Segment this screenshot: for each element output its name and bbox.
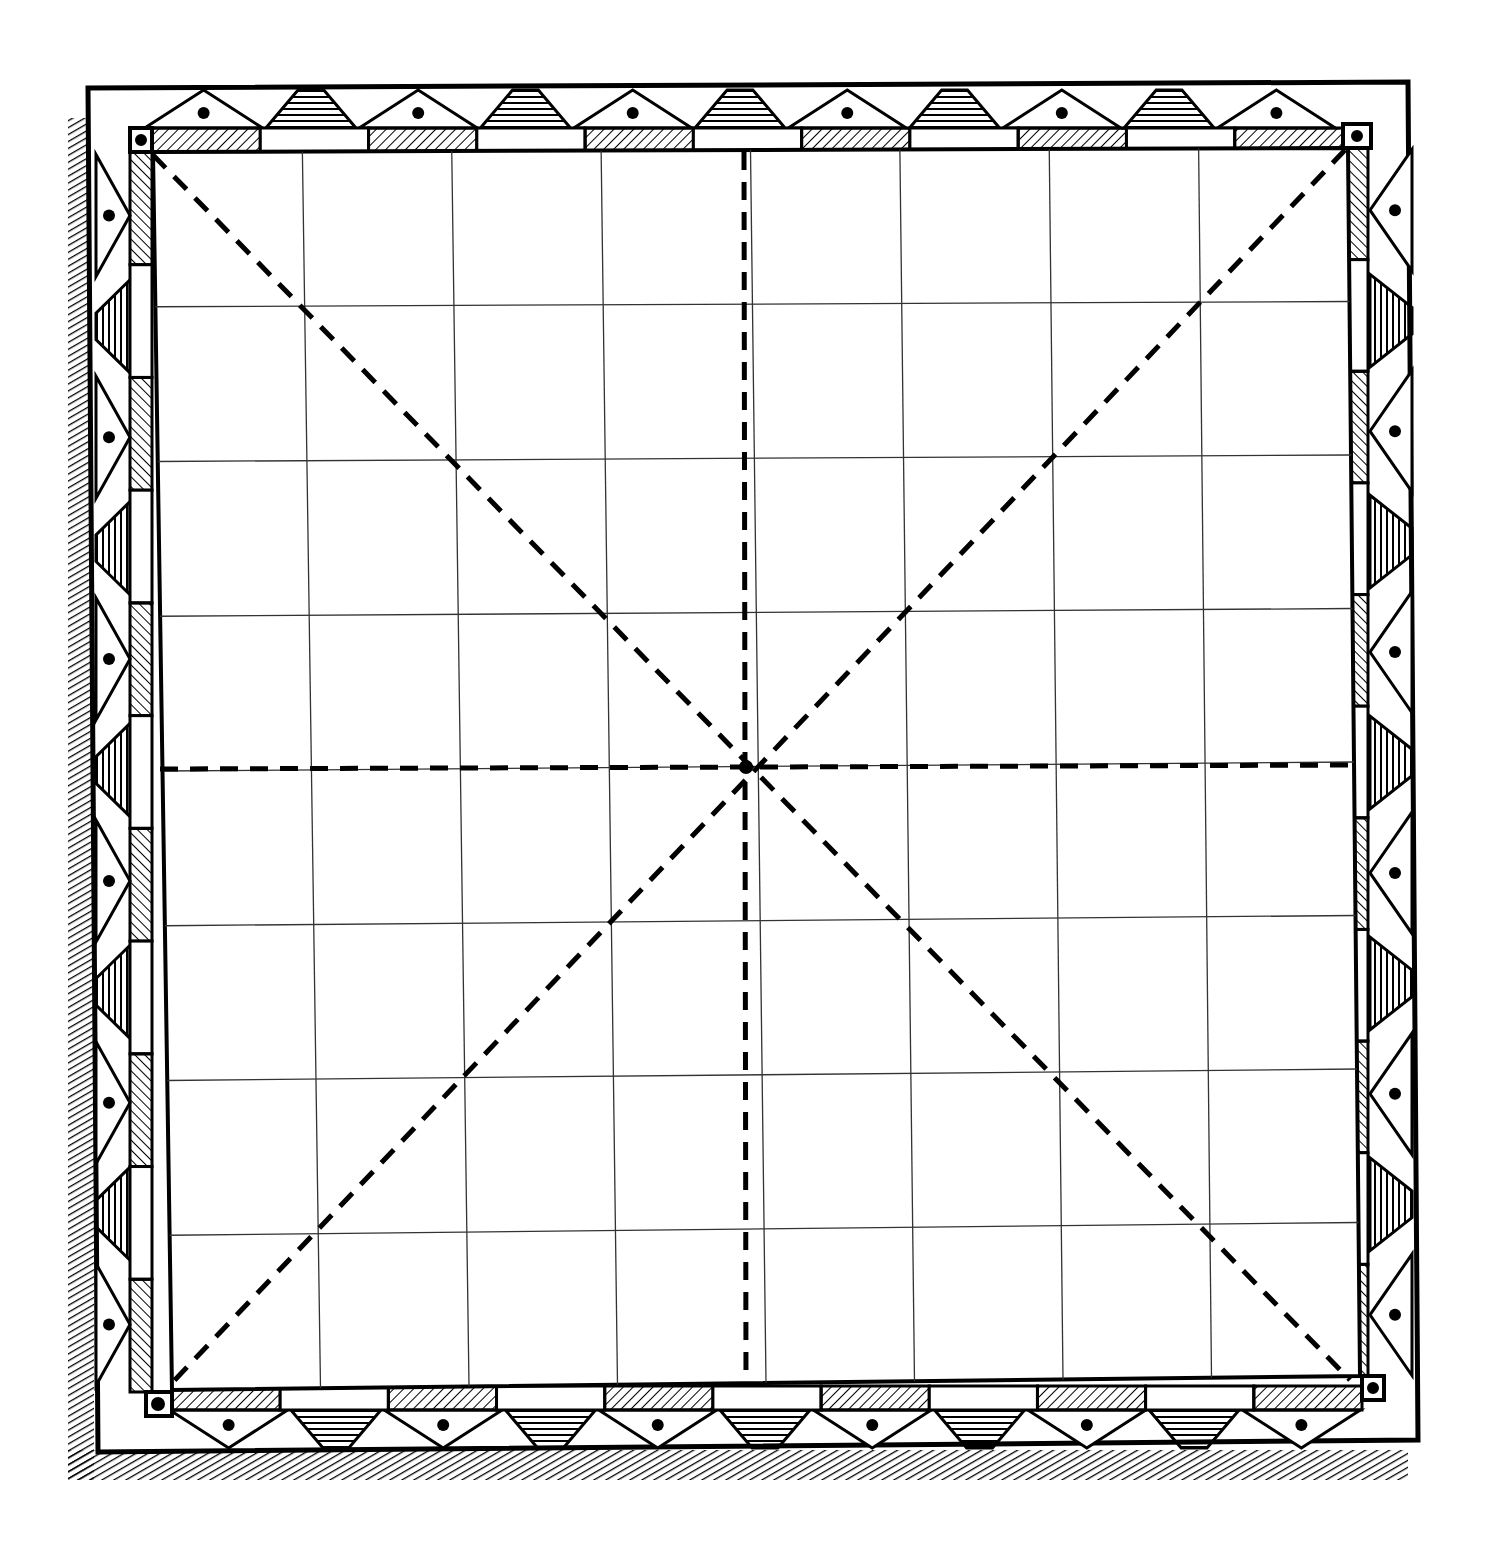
border-strip-segment xyxy=(130,941,152,1054)
corner-square-bottom-left xyxy=(146,1392,172,1416)
top-border-band xyxy=(145,90,1336,128)
game-board xyxy=(0,0,1491,1554)
dot-icon xyxy=(627,107,639,119)
border-strip-segment xyxy=(369,128,477,152)
border-strip-segment xyxy=(929,1386,1037,1410)
dot-icon xyxy=(1056,107,1068,119)
dot-icon xyxy=(103,1319,115,1331)
dot-icon xyxy=(103,875,115,887)
border-strip-segment xyxy=(388,1386,496,1410)
border-strip-segment xyxy=(713,1386,821,1410)
dot-icon xyxy=(1389,425,1401,437)
dot-icon xyxy=(841,107,853,119)
dot-icon xyxy=(866,1419,878,1431)
border-strip-segment xyxy=(1146,1386,1254,1410)
dot-icon xyxy=(1389,1088,1401,1100)
dot-icon xyxy=(412,107,424,119)
dot-icon xyxy=(198,107,210,119)
border-strip-segment xyxy=(477,128,585,152)
border-strip-segment xyxy=(130,265,152,378)
playing-field xyxy=(153,148,1360,1390)
corner-square-top-left xyxy=(130,128,152,152)
dot-icon xyxy=(437,1419,449,1431)
border-strip-segment xyxy=(130,152,152,265)
border-strip-segment xyxy=(497,1386,605,1410)
border-strip-segment xyxy=(821,1386,929,1410)
border-strip-segment xyxy=(260,128,368,152)
border-strip-segment xyxy=(1037,1386,1145,1410)
dot-icon xyxy=(1389,1309,1401,1321)
border-strip-segment xyxy=(130,603,152,716)
border-strip-segment xyxy=(152,128,260,152)
border-strip-segment xyxy=(130,716,152,829)
border-strip-segment xyxy=(1254,1386,1362,1410)
dot-icon xyxy=(103,1097,115,1109)
bottom-border-band xyxy=(170,1410,1361,1448)
border-strip-segment xyxy=(130,828,152,941)
corner-square-top-right xyxy=(1343,124,1371,148)
border-strip-segment xyxy=(605,1386,713,1410)
corner-square-bottom-right xyxy=(1362,1376,1384,1400)
dot-icon xyxy=(1270,107,1282,119)
right-border-band xyxy=(1370,149,1412,1375)
dot-icon xyxy=(1389,867,1401,879)
center-point[interactable] xyxy=(739,760,753,774)
dot-icon xyxy=(652,1419,664,1431)
border-strip-segment xyxy=(130,490,152,603)
border-strip-segment xyxy=(130,377,152,490)
dot-icon xyxy=(103,431,115,443)
border-strip-segment xyxy=(130,1167,152,1280)
dot-icon xyxy=(1389,204,1401,216)
dot-icon xyxy=(103,209,115,221)
left-border-band xyxy=(96,154,130,1385)
dot-icon xyxy=(103,653,115,665)
border-strip-segment xyxy=(130,1054,152,1167)
dot-icon xyxy=(1295,1419,1307,1431)
dot-icon xyxy=(223,1419,235,1431)
border-strip-segment xyxy=(130,1279,152,1392)
dot-icon xyxy=(1389,646,1401,658)
dot-icon xyxy=(1081,1419,1093,1431)
